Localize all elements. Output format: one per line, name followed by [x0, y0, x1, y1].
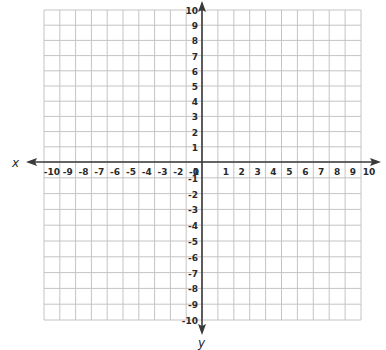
x-tick-label: -3	[158, 167, 168, 177]
y-tick-label: 3	[192, 112, 198, 122]
y-tick-label: 10	[185, 6, 198, 16]
x-tick-label: 2	[239, 167, 245, 177]
y-tick-label: -5	[188, 237, 198, 247]
x-tick-label: 5	[286, 167, 292, 177]
x-tick-label: 9	[350, 167, 356, 177]
x-tick-label: 8	[334, 167, 340, 177]
y-tick-label: 5	[192, 82, 198, 92]
coordinate-plane: -10-9-8-7-6-5-4-3-2-1012345678910 -10-9-…	[0, 0, 386, 350]
y-tick-label: -7	[188, 269, 198, 279]
y-tick-label: 1	[192, 143, 198, 153]
x-tick-label: 4	[270, 167, 276, 177]
x-tick-label: 6	[302, 167, 308, 177]
x-tick-label: -7	[94, 167, 104, 177]
x-tick-label: 10	[363, 167, 376, 177]
x-tick-label: 3	[254, 167, 260, 177]
y-tick-labels: -10-9-8-7-6-5-4-3-2-112345678910	[182, 6, 198, 326]
y-tick-label: -10	[182, 316, 198, 326]
y-tick-label: -2	[188, 190, 198, 200]
x-tick-label: -4	[142, 167, 152, 177]
y-tick-label: -6	[188, 253, 198, 263]
y-tick-label: -1	[188, 174, 198, 184]
x-tick-label: -9	[63, 167, 73, 177]
x-tick-label: -8	[79, 167, 89, 177]
y-tick-label: 6	[192, 67, 198, 77]
x-axis-label: x	[11, 156, 20, 170]
y-tick-label: 4	[192, 97, 198, 107]
y-tick-label: 9	[192, 21, 198, 31]
x-tick-label: 1	[223, 167, 229, 177]
x-tick-label: -10	[44, 167, 60, 177]
x-tick-label: -5	[126, 167, 136, 177]
y-tick-label: -3	[188, 205, 198, 215]
y-tick-label: 7	[192, 52, 198, 62]
y-tick-label: 8	[192, 36, 198, 46]
y-axis-label: y	[197, 336, 206, 350]
x-tick-label: -2	[173, 167, 183, 177]
x-tick-label: -6	[110, 167, 120, 177]
y-tick-label: -4	[188, 221, 198, 231]
y-tick-label: -8	[188, 284, 198, 294]
x-tick-labels: -10-9-8-7-6-5-4-3-2-1012345678910	[44, 167, 375, 177]
x-tick-label: 7	[318, 167, 324, 177]
y-tick-label: -9	[188, 300, 198, 310]
y-tick-label: 2	[192, 128, 198, 138]
